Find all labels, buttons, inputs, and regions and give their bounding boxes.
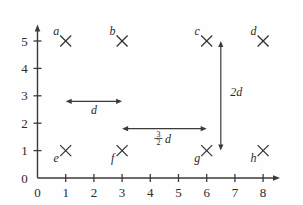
point-label-e: e xyxy=(54,151,60,165)
distance-2d-label: 2d xyxy=(230,85,243,99)
svg-text:2: 2 xyxy=(156,138,160,147)
distance-three-halves-d-label: 32d xyxy=(154,130,172,148)
distance-d-label: d xyxy=(91,103,98,117)
data-point-marker xyxy=(117,36,128,47)
point-labels: abcdefgh xyxy=(53,24,257,165)
data-point-marker xyxy=(258,145,269,156)
data-point-marker xyxy=(117,145,128,156)
y-tick-label: 0 xyxy=(21,171,28,186)
x-tick-label: 7 xyxy=(232,185,239,200)
distance-2d-arrow xyxy=(218,41,223,151)
y-tick-label: 2 xyxy=(21,116,28,131)
data-point-marker xyxy=(60,36,71,47)
data-point-marker xyxy=(201,36,212,47)
data-point-marker xyxy=(258,36,269,47)
y-axis-arrowhead-icon xyxy=(35,25,41,32)
point-label-h: h xyxy=(251,151,257,165)
scatter-figure: 012345678012345 abcdefgh d32d2d xyxy=(0,0,303,205)
plot-canvas: 012345678012345 abcdefgh d32d2d xyxy=(0,0,303,205)
x-tick-label: 2 xyxy=(91,185,98,200)
y-tick-label: 4 xyxy=(21,61,28,76)
x-tick-label: 8 xyxy=(260,185,267,200)
point-label-g: g xyxy=(194,151,200,165)
y-tick-label: 5 xyxy=(21,34,28,49)
y-tick-label: 1 xyxy=(21,143,28,158)
point-label-b: b xyxy=(110,24,116,38)
x-axis-arrowhead-icon xyxy=(273,175,280,181)
x-tick-label: 1 xyxy=(62,185,69,200)
point-label-f: f xyxy=(111,151,116,165)
y-tick-label: 3 xyxy=(21,88,28,103)
point-label-c: c xyxy=(195,24,201,38)
annotations: d32d2d xyxy=(66,41,244,151)
data-point-marker xyxy=(60,145,71,156)
tick-marks xyxy=(34,41,264,182)
point-label-a: a xyxy=(53,24,59,38)
svg-text:d: d xyxy=(165,132,172,146)
data-point-marker xyxy=(201,145,212,156)
x-tick-label: 3 xyxy=(119,185,126,200)
x-tick-label: 0 xyxy=(34,185,41,200)
tick-labels: 012345678012345 xyxy=(21,34,266,201)
x-tick-label: 6 xyxy=(203,185,210,200)
point-label-d: d xyxy=(251,24,258,38)
distance-three-halves-d-arrow xyxy=(122,126,207,131)
x-tick-label: 5 xyxy=(175,185,182,200)
x-tick-label: 4 xyxy=(147,185,154,200)
